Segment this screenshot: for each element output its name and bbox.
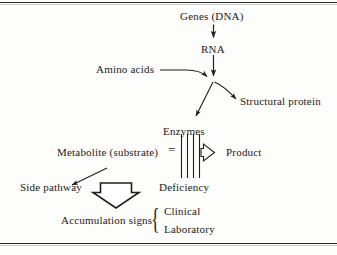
edge-junction-to-enzymes <box>196 82 213 116</box>
edge-metabolite-to-product <box>201 144 215 161</box>
edge-amino-acids-to-junction <box>160 70 207 77</box>
node-side-pathway: Side pathway <box>20 182 82 193</box>
node-amino-acids: Amino acids <box>96 64 154 75</box>
node-deficiency: Deficiency <box>159 182 209 193</box>
equilibrium-symbol: = <box>168 143 176 156</box>
large-hollow-down-arrow <box>93 183 139 208</box>
grouping-brace: { <box>151 203 160 233</box>
node-laboratory: Laboratory <box>164 224 215 235</box>
figure-panel: Genes (DNA) RNA Amino acids Structural p… <box>0 0 337 255</box>
pathway-block-bars <box>182 134 200 178</box>
edge-junction-to-structural-protein <box>215 82 237 99</box>
node-clinical: Clinical <box>164 206 200 217</box>
node-product: Product <box>226 147 262 158</box>
node-enzymes: Enzymes <box>163 126 205 137</box>
node-accumulation-signs: Accumulation signs <box>61 215 152 226</box>
node-structural-protein: Structural protein <box>240 96 321 107</box>
node-genes-dna: Genes (DNA) <box>180 11 244 22</box>
node-metabolite-substrate: Metabolite (substrate) <box>57 147 158 158</box>
node-rna: RNA <box>201 44 225 55</box>
